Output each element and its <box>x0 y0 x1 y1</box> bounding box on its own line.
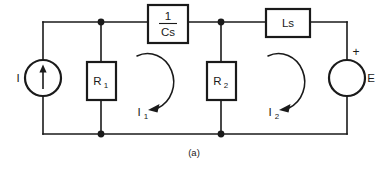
mesh-current-1-arrow-head <box>148 104 160 113</box>
voltage-source-symbol <box>329 60 365 96</box>
junction-dot-top-left <box>98 19 105 26</box>
capacitor-numerator: 1 <box>165 10 171 22</box>
resistor-2-label: R <box>213 75 221 87</box>
current-source-label: I <box>16 72 19 84</box>
capacitor-symbol: 1 Cs <box>148 5 188 43</box>
junction-dot-bottom-right <box>218 131 225 138</box>
junction-dot-bottom-left <box>98 131 105 138</box>
inductor-label: Ls <box>282 17 294 29</box>
junction-dot-top-right <box>218 19 225 26</box>
current-source-symbol <box>25 60 61 96</box>
voltage-source-circle <box>329 60 365 96</box>
circuit-diagram-figure: I R 1 R 2 1 Cs Ls + E <box>0 0 388 170</box>
resistor-2-symbol: R 2 <box>207 62 236 100</box>
mesh-current-2-arc <box>268 54 305 108</box>
mesh-current-1-label: I <box>137 106 140 118</box>
mesh-current-2-subscript: 2 <box>275 112 280 121</box>
resistor-1-label: R <box>93 75 101 87</box>
voltage-source-polarity: + <box>352 45 359 59</box>
capacitor-denominator: Cs <box>161 26 175 38</box>
resistor-2-subscript: 2 <box>224 81 229 90</box>
resistor-1-symbol: R 1 <box>87 62 116 100</box>
resistor-1-subscript: 1 <box>104 81 109 90</box>
mesh-current-2-label: I <box>268 106 271 118</box>
mesh-current-2-indicator <box>268 54 305 113</box>
voltage-source-label: E <box>367 72 375 84</box>
mesh-current-2-arrow-head <box>279 104 291 113</box>
mesh-current-1-indicator <box>137 54 174 113</box>
figure-caption: (a) <box>188 147 200 158</box>
mesh-current-1-arc <box>137 54 174 108</box>
mesh-current-1-subscript: 1 <box>144 112 149 121</box>
inductor-symbol: Ls <box>266 9 310 37</box>
